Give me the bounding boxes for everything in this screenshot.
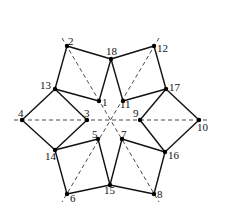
- vertex-18: [109, 57, 113, 61]
- edge-5-15: [98, 139, 110, 185]
- edge-18-1: [99, 59, 111, 101]
- vertex-6: [65, 192, 69, 196]
- vertex-label-17: 17: [169, 81, 181, 93]
- vertex-label-5: 5: [92, 128, 98, 140]
- petal-edges: [22, 46, 199, 194]
- vertex-label-18: 18: [106, 45, 118, 57]
- vertex-label-7: 7: [121, 128, 127, 140]
- hexagonal-petal-diagram: 123456789101112131415161718: [0, 0, 229, 212]
- vertex-label-11: 11: [120, 98, 131, 110]
- vertex-label-13: 13: [40, 79, 52, 91]
- vertex-labels: 123456789101112131415161718: [18, 35, 209, 204]
- edge-16-9: [140, 120, 165, 152]
- edge-10-16: [165, 120, 199, 152]
- vertex-label-4: 4: [18, 107, 24, 119]
- vertex-label-3: 3: [84, 107, 90, 119]
- vertex-label-8: 8: [157, 188, 163, 200]
- vertex-1: [97, 99, 101, 103]
- vertex-label-1: 1: [102, 96, 108, 108]
- edge-4-14: [22, 120, 55, 150]
- vertex-label-16: 16: [168, 149, 180, 161]
- vertex-label-12: 12: [157, 42, 168, 54]
- edge-11-18: [111, 59, 123, 101]
- vertex-label-2: 2: [68, 35, 74, 47]
- vertex-label-10: 10: [197, 121, 209, 133]
- vertex-points: [20, 44, 201, 196]
- vertex-label-6: 6: [70, 192, 76, 204]
- edge-13-4: [22, 89, 55, 120]
- edge-17-10: [166, 89, 199, 120]
- vertex-12: [152, 44, 156, 48]
- vertex-label-15: 15: [104, 184, 116, 196]
- edge-6-14: [55, 150, 67, 194]
- edge-9-17: [140, 89, 166, 120]
- edge-7-16: [122, 139, 165, 152]
- edge-8-15: [110, 185, 154, 194]
- vertex-8: [152, 192, 156, 196]
- vertex-label-9: 9: [133, 107, 139, 119]
- edge-15-7: [110, 139, 122, 185]
- vertex-17: [164, 87, 168, 91]
- edge-13-2: [55, 46, 67, 89]
- vertex-13: [53, 87, 57, 91]
- vertex-label-14: 14: [45, 150, 57, 162]
- vertex-16: [163, 150, 167, 154]
